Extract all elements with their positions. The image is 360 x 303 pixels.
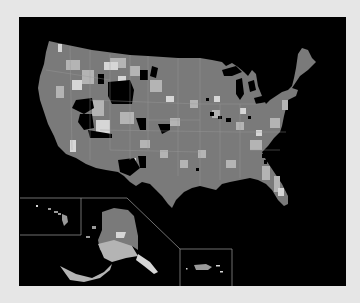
map-frame — [0, 0, 360, 303]
hawaii-inset-box — [20, 198, 81, 235]
hawaii — [36, 205, 68, 226]
alaska — [60, 208, 158, 282]
us-county-map — [0, 0, 360, 303]
puerto-rico — [186, 264, 223, 273]
